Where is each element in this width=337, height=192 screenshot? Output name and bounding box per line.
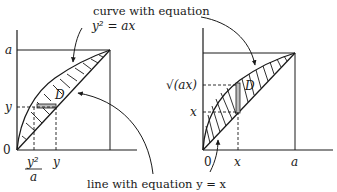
arrow-to-left-curve	[73, 28, 82, 62]
left-label-origin: 0	[3, 143, 11, 157]
left-label-x-y: y	[52, 155, 60, 169]
right-panel	[203, 28, 333, 150]
top-caption: curve with equation	[93, 4, 210, 18]
left-region-label: D	[54, 88, 65, 102]
right-label-a: a	[291, 155, 298, 169]
arrow-to-right-curve	[201, 17, 255, 65]
right-hatching	[206, 56, 287, 143]
right-label-x: x	[190, 105, 197, 119]
left-label-a: a	[5, 43, 12, 57]
right-region-label: D	[244, 79, 255, 93]
left-frac-num: y²	[26, 155, 39, 169]
right-strip	[236, 83, 240, 113]
diagram-canvas: curve with equation y² = ax line with eq…	[0, 0, 337, 192]
top-equation: y² = ax	[91, 19, 135, 33]
left-label-y: y	[4, 100, 12, 114]
right-label-sqrt: √(ax)	[166, 78, 197, 92]
right-label-x-axis-x: x	[234, 155, 241, 169]
bottom-caption: line with equation y = x	[87, 177, 227, 191]
left-panel	[17, 30, 137, 150]
right-label-origin: 0	[204, 155, 212, 169]
left-frac-den: a	[30, 170, 37, 184]
arrow-to-left-line	[78, 93, 153, 174]
